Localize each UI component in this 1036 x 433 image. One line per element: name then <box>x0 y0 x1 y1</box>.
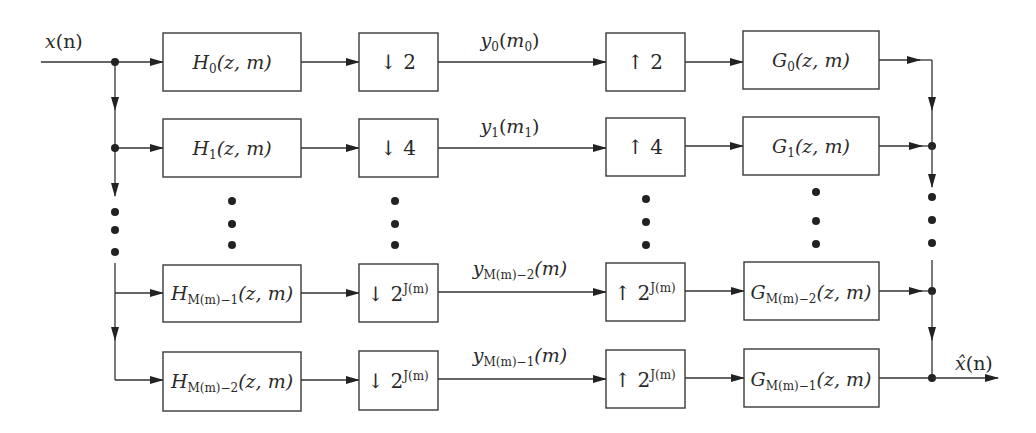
ellipsis-dot <box>642 195 650 203</box>
synthesis-filter-label: GM(m)−2(z, m) <box>751 283 872 302</box>
signal-label: yM(m)−2(m) <box>473 259 567 278</box>
signal-label: y0(m0) <box>481 31 540 50</box>
analysis-filter-label: H0(z, m) <box>192 53 271 72</box>
output-label-arg: (n) <box>966 352 993 374</box>
ellipsis-dot <box>111 248 119 256</box>
ellipsis-dot <box>928 193 936 201</box>
ellipsis-dot <box>928 239 936 247</box>
ellipsis-dot <box>812 217 820 225</box>
upsampler-label: ↑ 2 <box>627 52 663 72</box>
downsampler-label: ↓ 2J(m) <box>367 284 428 304</box>
ellipsis-dot <box>928 216 936 224</box>
synthesis-filter-label: G0(z, m) <box>772 51 850 70</box>
upsampler-label: ↑ 4 <box>627 137 663 157</box>
synthesis-filter-label: G1(z, m) <box>772 137 850 156</box>
upsampler-label: ↑ 2J(m) <box>614 370 675 390</box>
signal-label: yM(m)−1(m) <box>473 346 567 365</box>
ellipsis-dot <box>642 218 650 226</box>
downsampler-label: ↓ 2J(m) <box>367 371 428 391</box>
upsampler-label: ↑ 2J(m) <box>614 283 675 303</box>
ellipsis-dot <box>391 220 399 228</box>
junction-dot <box>111 58 119 66</box>
ellipsis-dot <box>228 197 236 205</box>
synthesis-filter-label: GM(m)−1(z, m) <box>751 370 872 389</box>
downsampler-label: ↓ 4 <box>380 138 416 158</box>
ellipsis-dot <box>111 226 119 234</box>
downsampler-label: ↓ 2 <box>380 52 416 72</box>
ellipsis-dot <box>812 188 820 196</box>
ellipsis-dot <box>391 197 399 205</box>
analysis-filter-label: HM(m)−1(z, m) <box>171 284 293 303</box>
signal-label: y1(m1) <box>481 117 540 136</box>
ellipsis-dot <box>642 241 650 249</box>
analysis-filter-label: HM(m)−2(z, m) <box>171 372 293 391</box>
output-label: x̂(n) <box>955 354 993 373</box>
ellipsis-dot <box>812 240 820 248</box>
ellipsis-dot <box>228 220 236 228</box>
input-label-arg: (n) <box>56 30 83 52</box>
ellipsis-dot <box>391 241 399 249</box>
output-label-var: x̂ <box>955 352 966 374</box>
ellipsis-dot <box>228 241 236 249</box>
ellipsis-dot <box>111 208 119 216</box>
input-label: x(n) <box>45 32 83 51</box>
input-label-var: x <box>45 30 56 52</box>
junction-dot <box>111 144 119 152</box>
analysis-filter-label: H1(z, m) <box>192 139 271 158</box>
